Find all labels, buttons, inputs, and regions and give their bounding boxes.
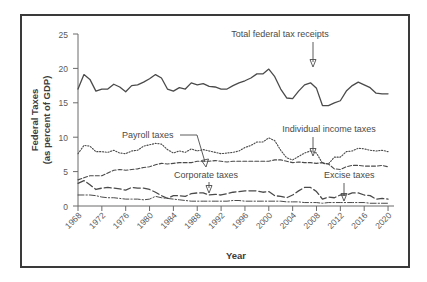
x-tick-label: 2020 bbox=[373, 210, 394, 231]
y-tick-label: 5 bbox=[63, 167, 68, 177]
x-tick-label: 1972 bbox=[87, 210, 108, 231]
x-tick-label: 2008 bbox=[301, 210, 322, 231]
y-tick-label: 25 bbox=[59, 30, 69, 40]
series-line-corporate-taxes bbox=[78, 181, 388, 200]
series-line-excise-taxes bbox=[78, 195, 388, 203]
chart-canvas: 25 20 15 10 5 0 196819721976198019841988… bbox=[22, 16, 408, 266]
annotation-label: Corporate taxes bbox=[174, 170, 239, 180]
x-axis-title: Year bbox=[226, 250, 246, 261]
x-tick-label: 2016 bbox=[349, 210, 370, 231]
x-tick-label: 1976 bbox=[111, 210, 132, 231]
annotation-excise-taxes: Excise taxes bbox=[324, 170, 375, 201]
series-line-individual-income-taxes bbox=[78, 138, 388, 164]
annotation-label: Payroll taxes bbox=[122, 130, 174, 140]
y-tick-label: 0 bbox=[63, 202, 68, 212]
y-tick-label: 15 bbox=[59, 98, 69, 108]
y-tick-labels: 25 20 15 10 5 0 bbox=[59, 30, 69, 212]
x-tick-marks bbox=[78, 206, 388, 211]
y-tick-label: 10 bbox=[59, 133, 69, 143]
annotation-label: Excise taxes bbox=[324, 170, 375, 180]
leader-line bbox=[197, 135, 205, 162]
y-tick-marks bbox=[73, 34, 78, 206]
y-axis-title-line2: (as percent of GDP) bbox=[41, 76, 52, 165]
annotation-label: Total federal tax receipts bbox=[231, 29, 329, 39]
x-tick-label: 1988 bbox=[182, 210, 203, 231]
x-tick-label: 1992 bbox=[206, 210, 227, 231]
annotation-total-federal-tax-receipts: Total federal tax receipts bbox=[231, 29, 329, 67]
annotation-corporate-taxes: Corporate taxes bbox=[174, 170, 239, 193]
x-tick-label: 1996 bbox=[230, 210, 251, 231]
x-tick-label: 1984 bbox=[158, 210, 179, 231]
annotation-label: Individual income taxes bbox=[282, 124, 376, 134]
y-axis-title-line1: Federal Taxes bbox=[29, 89, 40, 152]
arrow-head-icon bbox=[202, 159, 209, 167]
x-tick-label: 2012 bbox=[325, 210, 346, 231]
series-line-total-federal-tax-receipts bbox=[78, 69, 388, 105]
x-tick-label: 2004 bbox=[278, 210, 299, 231]
x-tick-label: 2000 bbox=[254, 210, 275, 231]
x-tick-label: 1968 bbox=[63, 210, 84, 231]
y-tick-label: 20 bbox=[59, 64, 69, 74]
annotation-individual-income-taxes: Individual income taxes bbox=[282, 124, 376, 156]
y-axis-title: Federal Taxes (as percent of GDP) bbox=[29, 76, 52, 165]
x-tick-label: 1980 bbox=[135, 210, 156, 231]
figure-frame: 25 20 15 10 5 0 196819721976198019841988… bbox=[20, 14, 410, 268]
x-tick-labels: 1968197219761980198419881992199620002004… bbox=[63, 210, 394, 231]
